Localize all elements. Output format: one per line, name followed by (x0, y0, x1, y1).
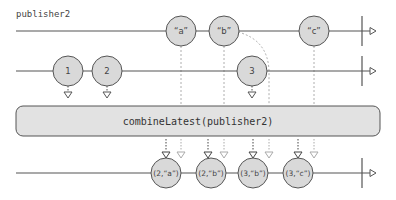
down-arrow-icon (162, 152, 170, 158)
down-arrow-icon (265, 152, 273, 158)
down-arrow-icon (249, 152, 257, 158)
marble-label: “c” (307, 26, 320, 36)
operator-label: combineLatest(publisher2) (123, 116, 274, 127)
marble: (3,“c”) (283, 158, 313, 188)
down-arrow-icon (204, 152, 212, 158)
down-arrow-icon (177, 152, 185, 158)
stream-label-publisher2: publisher2 (16, 9, 70, 19)
marble: 1 (53, 56, 83, 86)
stream-source: 1 2 3 (16, 56, 370, 98)
marble: “c” (299, 16, 329, 46)
marble-label: 3 (249, 66, 254, 76)
stream-publisher2: “a” “b” “c” (16, 16, 370, 46)
marble: “b” (209, 16, 239, 46)
marble: (3,“b”) (238, 158, 268, 188)
marble-diagram: publisher2 “a” “b” “c” 1 (0, 0, 396, 200)
marble: 2 (92, 56, 122, 86)
marble: (2,“a”) (151, 158, 181, 188)
marble-label: “a” (174, 26, 188, 36)
operator-box: combineLatest(publisher2) (16, 106, 380, 136)
marble: 3 (237, 56, 267, 86)
down-arrow-icon (294, 152, 302, 158)
down-arrow-icons (64, 86, 256, 98)
marble-label: “b” (217, 26, 231, 36)
down-arrow-icon (310, 152, 318, 158)
marble-label: 2 (104, 66, 109, 76)
stream-output: (2,“a”) (2,“b”) (3,“b”) (3,“c”) (16, 158, 370, 188)
marble-label: (2,“b”) (198, 169, 224, 178)
marble-label: 1 (65, 66, 70, 76)
down-arrow-icon (220, 152, 228, 158)
output-arrows (162, 139, 318, 158)
down-arrow-icon (248, 92, 256, 98)
marble: (2,“b”) (196, 158, 226, 188)
down-arrow-icon (103, 92, 111, 98)
marble-label: (2,“a”) (153, 169, 178, 178)
down-arrow-icon (64, 92, 72, 98)
marble-label: (3,“c”) (286, 169, 311, 178)
marble: “a” (166, 16, 196, 46)
marble-label: (3,“b”) (240, 169, 266, 178)
